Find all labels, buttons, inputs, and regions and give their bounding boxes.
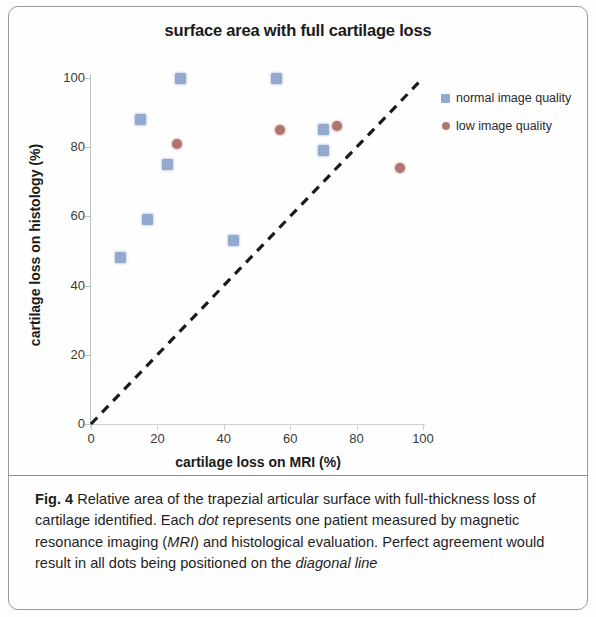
data-point-low-image-quality [395, 163, 405, 173]
caption-emphasis-dot: dot [198, 512, 218, 528]
x-tick-mark [157, 424, 158, 430]
data-point-normal-image-quality [271, 73, 282, 84]
chart-title: surface area with full cartilage loss [9, 21, 587, 40]
x-tick-label: 0 [71, 431, 111, 446]
x-tick-mark [357, 424, 358, 430]
figure-caption: Fig. 4 Relative area of the trapezial ar… [35, 489, 565, 575]
data-point-normal-image-quality [162, 159, 173, 170]
data-point-normal-image-quality [318, 145, 329, 156]
legend-label-low-image-quality: low image quality [456, 119, 552, 133]
x-axis-title: cartilage loss on MRI (%) [91, 454, 425, 470]
y-tick-label-text: 60 [43, 208, 85, 223]
chart-legend: normal image quality low image quality [441, 91, 591, 147]
y-tick-label-text: 100 [43, 70, 85, 85]
scatter-plot-area [91, 78, 423, 424]
y-axis-title: cartilage loss on histology (%) [27, 115, 43, 375]
legend-label-normal-image-quality: normal image quality [456, 91, 571, 105]
legend-item-normal-image-quality: normal image quality [441, 91, 591, 105]
x-tick-label: 100 [403, 431, 443, 446]
caption-emphasis-mri: MRI [167, 534, 194, 550]
x-tick-mark [224, 424, 225, 430]
figure-label: Fig. 4 [35, 491, 73, 507]
caption-divider [9, 475, 587, 476]
legend-item-low-image-quality: low image quality [441, 119, 591, 133]
x-tick-label: 40 [204, 431, 244, 446]
x-tick-label: 20 [137, 431, 177, 446]
y-tick-label-text: 0 [43, 416, 85, 431]
data-point-normal-image-quality [142, 214, 153, 225]
data-point-normal-image-quality [175, 73, 186, 84]
chart-region: surface area with full cartilage loss 02… [9, 7, 587, 469]
x-tick-mark [290, 424, 291, 430]
data-point-low-image-quality [275, 125, 285, 135]
legend-circle-marker-icon [442, 122, 450, 130]
caption-emphasis-diagonal-line: diagonal line [295, 555, 377, 571]
data-point-normal-image-quality [228, 235, 239, 246]
y-tick-label-text: 40 [43, 278, 85, 293]
y-tick-label-text: 80 [43, 139, 85, 154]
data-point-low-image-quality [172, 139, 182, 149]
data-point-low-image-quality [332, 121, 342, 131]
x-tick-label: 60 [270, 431, 310, 446]
data-point-normal-image-quality [115, 252, 126, 263]
x-tick-label: 80 [337, 431, 377, 446]
x-tick-mark [423, 424, 424, 430]
x-tick-mark [91, 424, 92, 430]
figure-card: surface area with full cartilage loss 02… [8, 6, 588, 610]
data-point-normal-image-quality [135, 114, 146, 125]
x-axis-line [91, 424, 425, 425]
legend-square-marker-icon [441, 94, 450, 103]
data-point-normal-image-quality [318, 124, 329, 135]
y-tick-label-text: 20 [43, 347, 85, 362]
